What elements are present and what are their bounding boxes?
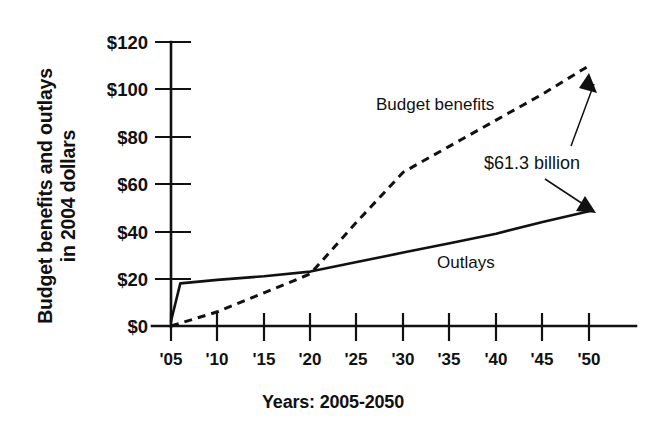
x-axis-title: Years: 2005-2050: [0, 392, 666, 413]
x-tick-label-45: '45: [531, 350, 554, 369]
x-axis-tick-labels: '05 '10 '15 '20 '25 '30 '35 '40 '45 '50: [160, 350, 601, 369]
y-tick-label-80: $80: [117, 127, 148, 148]
annotation-gap-label: $61.3 billion: [484, 153, 580, 173]
y-tick-label-0: $0: [127, 316, 148, 337]
annotation-arrow-to-outlays: [545, 179, 596, 213]
annotation-arrow-to-budget-benefits: [571, 73, 597, 146]
x-tick-label-10: '10: [206, 350, 229, 369]
x-tick-label-30: '30: [392, 350, 415, 369]
arrowhead-down-icon: [576, 196, 596, 213]
chart-figure: Budget benefits and outlays in 2004 doll…: [0, 0, 666, 435]
x-tick-label-20: '20: [299, 350, 322, 369]
y-tick-label-120: $120: [107, 32, 148, 53]
y-tick-label-100: $100: [107, 79, 148, 100]
chart-plot-svg: $120 $100 $80 $60 $40 $20 $0 '05 '10 '15: [0, 0, 666, 435]
series-label-budget-benefits: Budget benefits: [376, 95, 494, 114]
y-axis-tick-labels: $120 $100 $80 $60 $40 $20 $0: [107, 32, 148, 337]
x-tick-label-05: '05: [160, 350, 183, 369]
series-line-outlays: [171, 211, 589, 321]
y-axis-title-line-2: in 2004 dollars: [57, 130, 80, 262]
y-tick-label-40: $40: [117, 222, 148, 243]
x-tick-label-40: '40: [485, 350, 508, 369]
x-tick-label-50: '50: [578, 350, 601, 369]
x-tick-label-35: '35: [438, 350, 461, 369]
x-tick-label-15: '15: [253, 350, 276, 369]
y-tick-label-20: $20: [117, 269, 148, 290]
series-label-outlays: Outlays: [437, 253, 495, 272]
y-tick-label-60: $60: [117, 174, 148, 195]
x-tick-label-25: '25: [345, 350, 368, 369]
y-axis-title: Budget benefits and outlays in 2004 doll…: [29, 51, 85, 341]
arrowhead-up-icon: [579, 73, 597, 93]
y-axis-title-line-1: Budget benefits and outlays: [34, 68, 57, 324]
